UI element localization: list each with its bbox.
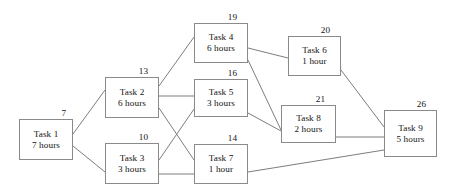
node-task-9[interactable]: Task 95 hours — [384, 110, 437, 157]
node-task-2[interactable]: Task 26 hours — [105, 77, 159, 118]
node-task-6-value: 20 — [278, 25, 330, 35]
node-task-3[interactable]: Task 33 hours — [105, 143, 159, 184]
node-task-1-value: 7 — [14, 108, 66, 118]
node-task-4-duration: 6 hours — [207, 43, 235, 54]
node-task-6[interactable]: Task 61 hour — [288, 36, 341, 76]
node-task-9-duration: 5 hours — [396, 134, 424, 145]
node-task-5-duration: 3 hours — [207, 98, 235, 109]
node-task-8-duration: 2 hours — [294, 124, 322, 135]
node-task-1-name: Task 1 — [34, 129, 59, 140]
edge-task-4-to-task-6 — [248, 48, 288, 58]
task-network-diagram: Task 17 hours7Task 26 hours13Task 33 hou… — [0, 0, 453, 195]
node-task-7-value: 14 — [185, 133, 237, 143]
node-task-8[interactable]: Task 82 hours — [281, 105, 336, 143]
edge-task-1-to-task-2 — [73, 90, 105, 134]
node-task-3-value: 10 — [96, 132, 148, 142]
node-task-1-duration: 7 hours — [32, 140, 60, 151]
node-task-8-value: 21 — [273, 94, 325, 104]
node-task-9-name: Task 9 — [398, 123, 423, 134]
node-task-3-duration: 3 hours — [118, 164, 146, 175]
node-task-6-name: Task 6 — [302, 45, 327, 56]
edge-task-5-to-task-8 — [248, 113, 281, 131]
node-task-7-duration: 1 hour — [209, 164, 233, 175]
node-task-5-name: Task 5 — [209, 87, 234, 98]
node-task-3-name: Task 3 — [120, 153, 145, 164]
node-task-7[interactable]: Task 71 hour — [194, 144, 248, 184]
node-task-1[interactable]: Task 17 hours — [19, 119, 73, 160]
edge-task-1-to-task-3 — [73, 146, 105, 172]
edge-task-2-to-task-4 — [159, 37, 194, 86]
node-task-4-value: 19 — [185, 12, 237, 22]
node-task-4-name: Task 4 — [209, 32, 234, 43]
node-task-5-value: 16 — [185, 68, 237, 78]
node-task-2-name: Task 2 — [120, 87, 145, 98]
node-task-7-name: Task 7 — [209, 153, 234, 164]
node-task-2-value: 13 — [96, 66, 148, 76]
edge-task-7-to-task-9 — [248, 150, 384, 172]
node-task-5[interactable]: Task 53 hours — [194, 79, 248, 117]
node-task-4[interactable]: Task 46 hours — [194, 23, 248, 63]
node-task-8-name: Task 8 — [296, 113, 321, 124]
node-task-2-duration: 6 hours — [118, 98, 146, 109]
node-task-9-value: 26 — [374, 99, 426, 109]
node-task-6-duration: 1 hour — [302, 56, 326, 67]
